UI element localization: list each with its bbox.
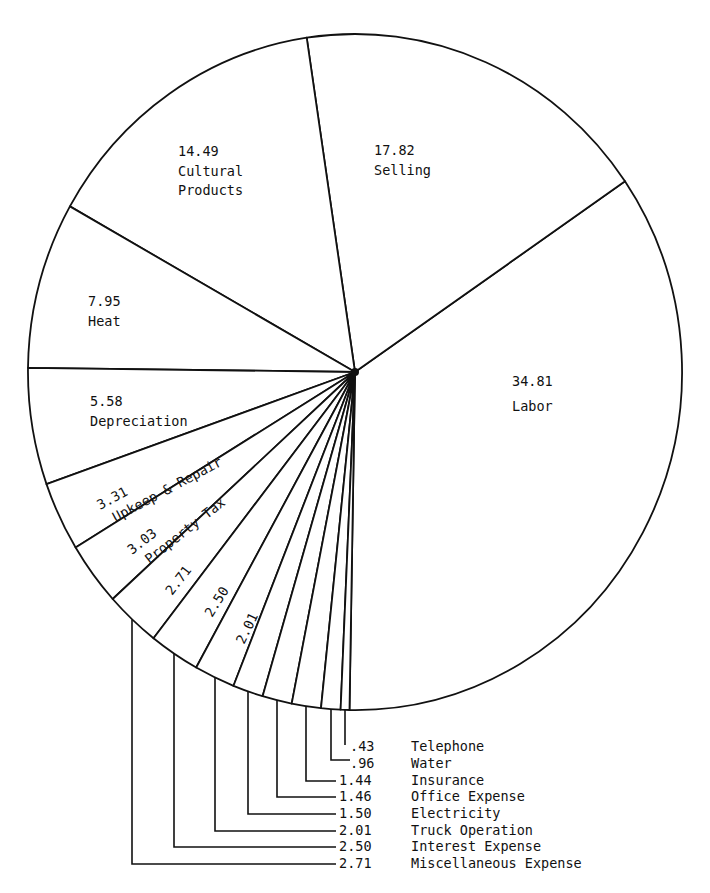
- legend-label-insurance: Insurance: [411, 772, 484, 788]
- legend-label-water: Water: [411, 755, 452, 771]
- legend-label-electricity: Electricity: [411, 805, 500, 821]
- legend-value-truck: 2.01: [339, 822, 372, 838]
- legend-label-truck: Truck Operation: [411, 822, 533, 838]
- cultural-name: Cultural: [178, 163, 243, 179]
- cultural-name2: Products: [178, 182, 243, 198]
- labor-name: Labor: [512, 398, 553, 414]
- legend-label-telephone: Telephone: [411, 738, 484, 754]
- depreciation-value: 5.58: [90, 393, 123, 409]
- selling-name: Selling: [374, 162, 431, 178]
- labor-value: 34.81: [512, 373, 553, 389]
- legend-value-telephone: .43: [350, 738, 374, 754]
- legend-value-water: .96: [350, 755, 374, 771]
- heat-name: Heat: [88, 313, 121, 329]
- callout-line-electricity: [248, 691, 336, 814]
- legend-value-electricity: 1.50: [339, 805, 372, 821]
- legend-value-insurance: 1.44: [339, 772, 372, 788]
- legend-value-interest: 2.50: [339, 838, 372, 854]
- legend-label-office: Office Expense: [411, 788, 525, 804]
- pie-center: [351, 368, 359, 376]
- legend-label-misc: Miscellaneous Expense: [411, 855, 582, 871]
- callout-legend: .43 Telephone .96 Water 1.44 Insurance 1…: [339, 738, 582, 871]
- legend-value-office: 1.46: [339, 788, 372, 804]
- legend-label-interest: Interest Expense: [411, 838, 541, 854]
- depreciation-name: Depreciation: [90, 413, 188, 429]
- legend-value-misc: 2.71: [339, 855, 372, 871]
- pie-slices: [28, 34, 682, 710]
- expense-pie-chart: 34.81 Labor 17.82 Selling 14.49 Cultural…: [0, 0, 710, 893]
- callout-line-water: [331, 709, 350, 760]
- selling-value: 17.82: [374, 142, 415, 158]
- heat-value: 7.95: [88, 293, 121, 309]
- cultural-value: 14.49: [178, 143, 219, 159]
